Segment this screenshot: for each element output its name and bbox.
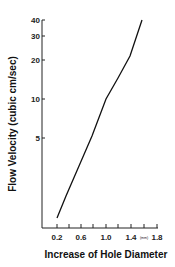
y-axis-label: Flow Velocity (cubic cm/sec) — [7, 56, 18, 192]
y-tick-label: 30 — [31, 32, 40, 41]
chart: 40 30 20 10 5 0.2 0.6 1.0 1.4 (mm) 1.8 F… — [0, 0, 175, 267]
x-tick-label: 1.4 — [125, 233, 137, 242]
y-tick-label: 10 — [31, 95, 40, 104]
x-ticks — [57, 224, 157, 228]
data-line — [57, 20, 142, 218]
y-tick-labels: 40 30 20 10 5 — [31, 16, 40, 143]
x-axis-label: Increase of Hole Diameter — [45, 249, 168, 260]
y-tick-label: 20 — [31, 56, 40, 65]
x-tick-label: 0.6 — [75, 233, 87, 242]
x-tick-label: 1.8 — [151, 233, 163, 242]
x-tick-label: 1.0 — [100, 233, 112, 242]
y-tick-label: 5 — [36, 134, 41, 143]
x-unit-label: (mm) — [140, 236, 148, 240]
x-tick-labels: 0.2 0.6 1.0 1.4 (mm) 1.8 — [51, 233, 163, 242]
x-tick-label: 0.2 — [51, 233, 63, 242]
y-tick-label: 40 — [31, 16, 40, 25]
